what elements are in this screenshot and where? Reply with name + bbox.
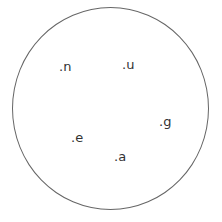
diagram-canvas: .n .u .g .e .a xyxy=(0,0,222,222)
label-u: .u xyxy=(122,58,134,71)
label-e: .e xyxy=(71,131,83,144)
boundary-circle xyxy=(12,7,209,210)
label-n: .n xyxy=(59,60,71,73)
label-a: .a xyxy=(114,150,126,163)
label-g: .g xyxy=(159,115,171,128)
